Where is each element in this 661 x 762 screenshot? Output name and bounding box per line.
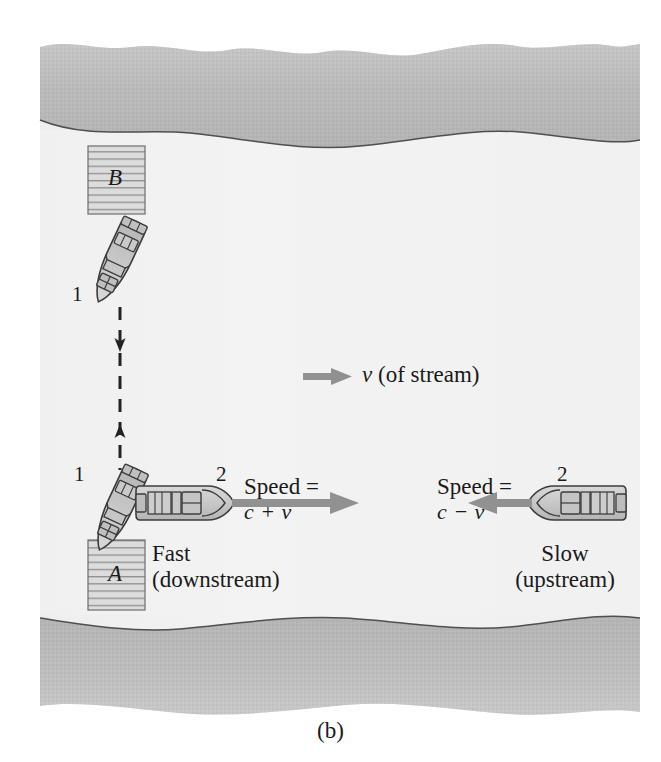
stream-v-symbol: v [362, 362, 372, 387]
figure-b-river-diagram: B A 1 1 2 2 v (of stream) Speed = c + v … [0, 0, 661, 762]
boat-label-2-left: 2 [216, 463, 227, 486]
boat-upstream [528, 486, 626, 520]
upstream-speed-label: Speed = c − v [437, 475, 512, 524]
boat-downstream [136, 486, 234, 520]
upstream-speed-line1: Speed = [437, 475, 512, 500]
dock-b-letter: B [108, 166, 123, 191]
bottom-bank [40, 616, 640, 715]
river-scene [0, 0, 661, 762]
upstream-name-line2: (upstream) [490, 567, 640, 593]
boat-label-1-lower: 1 [74, 463, 85, 486]
upstream-speed-line2: c − v [437, 500, 512, 524]
downstream-speed-line2: c + v [244, 500, 319, 524]
figure-caption: (b) [0, 718, 661, 744]
stream-velocity-label: v (of stream) [362, 363, 480, 388]
downstream-speed-line1: Speed = [244, 475, 319, 500]
downstream-name-label: Fast (downstream) [152, 541, 280, 594]
boat-label-1-upper: 1 [72, 283, 83, 306]
top-bank [40, 44, 640, 148]
stream-of-stream-text: (of stream) [372, 362, 479, 387]
upstream-name-line1: Slow [490, 541, 640, 567]
downstream-name-line1: Fast [152, 541, 280, 567]
dock-a-letter: A [108, 562, 123, 587]
upstream-name-label: Slow (upstream) [490, 541, 640, 594]
boat-label-2-right: 2 [557, 463, 568, 486]
downstream-speed-label: Speed = c + v [244, 475, 319, 524]
downstream-name-line2: (downstream) [152, 567, 280, 593]
